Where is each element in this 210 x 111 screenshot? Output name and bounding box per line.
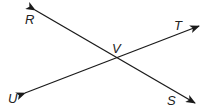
diagram: R T V U S [0,0,210,111]
label-u: U [8,91,18,106]
label-s: S [167,93,176,108]
line-ut [25,26,199,93]
label-v: V [112,41,122,56]
line-rs [35,10,195,103]
label-t: T [174,18,183,33]
intersecting-lines-figure: R T V U S [0,0,210,111]
label-r: R [25,12,34,27]
